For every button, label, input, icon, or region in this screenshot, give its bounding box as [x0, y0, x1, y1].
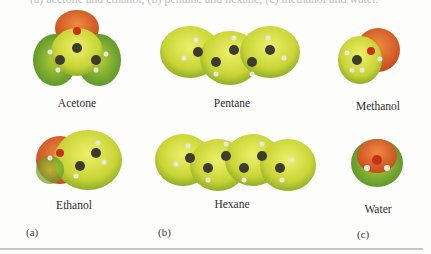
panel-c-label: (c): [357, 228, 369, 240]
acetone-label: Acetone: [58, 97, 96, 109]
acetone-map: [33, 10, 121, 86]
hexane-map: [155, 134, 316, 191]
panel-b-label: (b): [158, 226, 171, 238]
methanol-map: [338, 28, 400, 84]
electrostatic-potential-maps: [0, 0, 431, 254]
water-map: [351, 139, 403, 187]
methanol-label: Methanol: [356, 100, 400, 112]
pentane-map: [160, 26, 300, 85]
bottom-rule: [0, 248, 423, 250]
ethanol-label: Ethanol: [56, 199, 92, 211]
hexane-label: Hexane: [214, 198, 249, 210]
ethanol-map: [36, 130, 122, 190]
pentane-label: Pentane: [214, 97, 250, 109]
panel-a-label: (a): [26, 226, 38, 238]
water-label: Water: [364, 203, 391, 215]
